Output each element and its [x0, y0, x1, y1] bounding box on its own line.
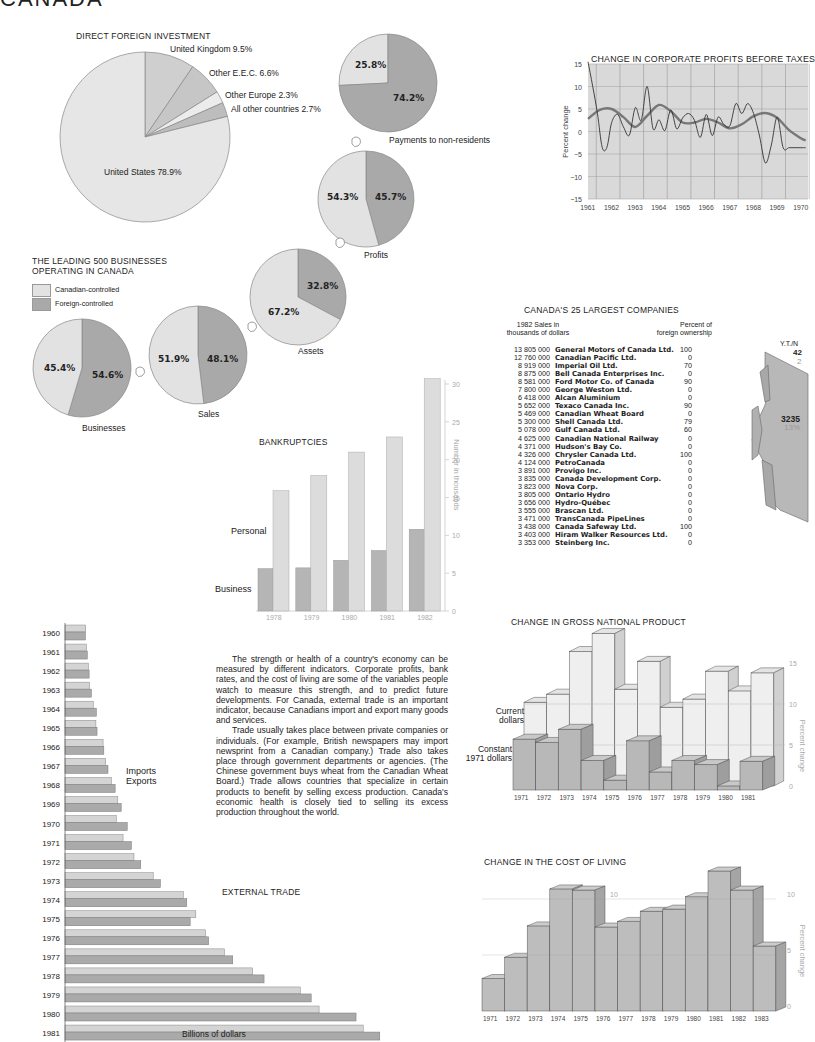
col-xtick-label: 1971: [483, 1015, 498, 1022]
col-bar-front: [505, 957, 528, 1011]
col-bar-front: [527, 926, 550, 1011]
col-xtick-label: 1974: [551, 1015, 566, 1022]
col-bar-front: [685, 897, 708, 1011]
col-bar-front: [708, 871, 731, 1011]
col-xtick-label: 1982: [732, 1015, 747, 1022]
col-bar-front: [753, 946, 776, 1011]
col-xtick-label: 1976: [596, 1015, 611, 1022]
col-xtick-label: 1977: [619, 1015, 634, 1022]
col-xtick-label: 1980: [686, 1015, 701, 1022]
col-bar-side: [776, 942, 786, 1011]
col-xtick-label: 1979: [664, 1015, 679, 1022]
col-bar: [753, 942, 786, 1011]
col-bar-front: [663, 909, 686, 1011]
col-bar-front: [640, 911, 663, 1011]
col-bar-front: [618, 921, 641, 1011]
col-xtick-label: 1972: [506, 1015, 521, 1022]
col-ylabel: Percent change: [798, 925, 807, 978]
col-bar-front: [572, 890, 595, 1011]
col-ytick-label-inner: 10: [610, 891, 618, 898]
col-xtick-label: 1983: [754, 1015, 769, 1022]
col-xtick-label: 1981: [709, 1015, 724, 1022]
col-bar-front: [595, 927, 618, 1011]
col-bar-front: [731, 890, 754, 1011]
col-xtick-label: 1975: [573, 1015, 588, 1022]
col-ytick-label: 10: [787, 891, 795, 898]
col-ytick-label: 0: [787, 1003, 791, 1010]
col-bar-front: [550, 889, 573, 1011]
col-ytick-label: 5: [787, 947, 791, 954]
col-xtick-label: 1978: [641, 1015, 656, 1022]
col-bar-front: [482, 979, 505, 1011]
col-xtick-label: 1973: [528, 1015, 543, 1022]
